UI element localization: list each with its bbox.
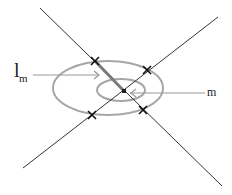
left-pointer-arrow-icon <box>33 71 99 79</box>
center-point <box>122 89 126 93</box>
right-label: m <box>207 85 217 99</box>
left-label-subscript: m <box>19 72 28 84</box>
geometry-diagram: l m m <box>0 0 232 195</box>
